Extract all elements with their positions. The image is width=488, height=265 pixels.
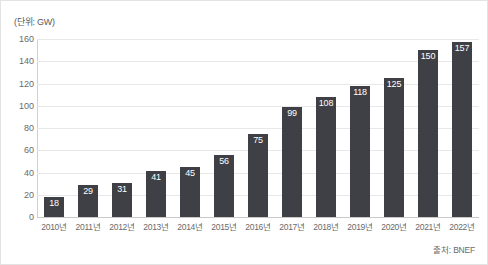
bar-slot: 29	[71, 39, 105, 217]
bar-slot: 99	[275, 39, 309, 217]
x-axis-tick: 2019년	[343, 220, 377, 236]
x-axis-tick: 2013년	[139, 220, 173, 236]
chart-figure: (단위: GW) 020406080100120140160 182931414…	[0, 0, 488, 265]
bar-value-label: 99	[287, 109, 297, 118]
y-axis-tick: 120	[4, 79, 34, 89]
bar: 125	[384, 78, 404, 217]
x-axis-tick: 2020년	[377, 220, 411, 236]
bar-value-label: 18	[49, 199, 59, 208]
bar: 31	[112, 183, 132, 217]
bar: 75	[248, 134, 268, 217]
bar-value-label: 125	[387, 80, 401, 89]
x-axis-tick: 2016년	[241, 220, 275, 236]
bar: 108	[316, 97, 336, 217]
bar: 157	[452, 42, 472, 217]
bar-value-label: 45	[185, 169, 195, 178]
x-axis-tick: 2018년	[309, 220, 343, 236]
bar-value-label: 157	[455, 44, 469, 53]
unit-caption: (단위: GW)	[14, 15, 55, 28]
y-axis-tick: 60	[4, 145, 34, 155]
gridline	[37, 217, 479, 218]
bar-slot: 108	[309, 39, 343, 217]
bar-value-label: 41	[151, 173, 161, 182]
bar-slot: 41	[139, 39, 173, 217]
bar: 29	[78, 185, 98, 217]
x-axis-tick: 2022년	[445, 220, 479, 236]
plot-area: 1829314145567599108118125150157	[37, 39, 479, 217]
bar-value-label: 29	[83, 187, 93, 196]
y-axis-tick: 160	[4, 34, 34, 44]
bar: 56	[214, 155, 234, 217]
bar: 18	[44, 197, 64, 217]
y-axis-tick: 40	[4, 168, 34, 178]
bar-slot: 31	[105, 39, 139, 217]
bar-value-label: 108	[319, 99, 333, 108]
bar: 99	[282, 107, 302, 217]
x-axis-tick: 2011년	[71, 220, 105, 236]
bar: 41	[146, 171, 166, 217]
x-axis-tick: 2015년	[207, 220, 241, 236]
bar: 150	[418, 50, 438, 217]
bar-value-label: 75	[253, 136, 263, 145]
y-axis-tick: 0	[4, 212, 34, 222]
source-note: 출처: BNEF	[433, 243, 475, 255]
bar-slot: 45	[173, 39, 207, 217]
x-axis-tick: 2014년	[173, 220, 207, 236]
x-axis-tick-labels: 2010년2011년2012년2013년2014년2015년2016년2017년…	[37, 220, 479, 236]
x-axis-tick: 2017년	[275, 220, 309, 236]
x-axis-tick: 2021년	[411, 220, 445, 236]
bar-value-label: 118	[353, 88, 367, 97]
bar-slot: 125	[377, 39, 411, 217]
bar-series: 1829314145567599108118125150157	[37, 39, 479, 217]
bar-slot: 18	[37, 39, 71, 217]
y-axis-tick: 20	[4, 190, 34, 200]
bar: 45	[180, 167, 200, 217]
bar-value-label: 150	[421, 52, 435, 61]
y-axis-tick: 80	[4, 123, 34, 133]
bar-slot: 118	[343, 39, 377, 217]
x-axis-tick: 2012년	[105, 220, 139, 236]
bar-slot: 157	[445, 39, 479, 217]
y-axis-tick: 140	[4, 56, 34, 66]
bar: 118	[350, 86, 370, 217]
bar-slot: 75	[241, 39, 275, 217]
bar-slot: 56	[207, 39, 241, 217]
bar-value-label: 56	[219, 157, 229, 166]
bar-value-label: 31	[117, 185, 127, 194]
y-axis-tick-labels: 020406080100120140160	[1, 39, 34, 217]
x-axis-tick: 2010년	[37, 220, 71, 236]
y-axis-tick: 100	[4, 101, 34, 111]
bar-slot: 150	[411, 39, 445, 217]
